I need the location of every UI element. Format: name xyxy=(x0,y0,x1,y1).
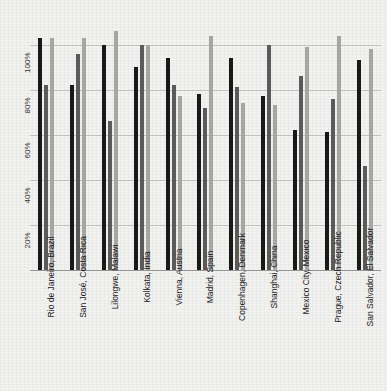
plot-area xyxy=(30,22,381,271)
x-axis-tick-label: Kolkata, India xyxy=(126,273,158,391)
bar-groups xyxy=(30,22,381,270)
y-axis-tick-label: 80% xyxy=(0,85,30,95)
bar-group xyxy=(62,22,94,270)
x-axis-tick-label: Madrid, Spain xyxy=(190,273,222,391)
y-axis-tick-label: 60% xyxy=(0,130,30,140)
bar xyxy=(209,36,213,270)
x-axis-tick-label: Mexico City, Mexico xyxy=(285,273,317,391)
y-axis-tick-label: 40% xyxy=(0,175,30,185)
y-axis-tick-label: 100% xyxy=(0,40,30,50)
bar xyxy=(140,45,144,270)
y-axis-tick-label: 20% xyxy=(0,220,30,230)
x-axis-tick-label: Shanghai, China xyxy=(253,273,285,391)
bar-group xyxy=(190,22,222,270)
bar xyxy=(166,58,170,270)
bar xyxy=(50,38,54,270)
bar-group xyxy=(158,22,190,270)
bar xyxy=(357,60,361,270)
bar-group xyxy=(126,22,158,270)
y-axis: 100%80%60%40%20% xyxy=(0,22,30,270)
bar xyxy=(197,94,201,270)
bar xyxy=(70,85,74,270)
x-axis-tick-label: San José, Costa Rica xyxy=(62,273,94,391)
bar xyxy=(203,108,207,270)
bar xyxy=(178,96,182,270)
bar-chart: 100%80%60%40%20% Rio de Janeiro, BrazilS… xyxy=(0,13,387,391)
bar-group xyxy=(30,22,62,270)
x-axis-tick-label: Copenhagen, Denmark xyxy=(221,273,253,391)
x-axis-tick-label: Vienna, Austria xyxy=(158,273,190,391)
x-axis-tick-label: Rio de Janeiro, Brazil xyxy=(30,273,62,391)
bar xyxy=(267,45,271,270)
bar xyxy=(229,58,233,270)
bar-group xyxy=(253,22,285,270)
bar xyxy=(172,85,176,270)
x-axis: Rio de Janeiro, BrazilSan José, Costa Ri… xyxy=(30,273,381,391)
bar xyxy=(146,45,150,270)
x-axis-tick-label: Lilongwe, Malawi xyxy=(94,273,126,391)
bar xyxy=(102,45,106,270)
bar-group xyxy=(94,22,126,270)
bar xyxy=(38,38,42,270)
bar xyxy=(261,96,265,270)
bar xyxy=(293,130,297,270)
chart-title-strip xyxy=(0,0,387,13)
bar-group xyxy=(285,22,317,270)
bar xyxy=(325,132,329,270)
bar xyxy=(114,31,118,270)
bar xyxy=(305,47,309,270)
x-axis-tick-label: San Salvador, El Salvador xyxy=(349,273,381,391)
x-axis-tick-label: Prague, Czech Republic xyxy=(317,273,349,391)
bar xyxy=(134,67,138,270)
